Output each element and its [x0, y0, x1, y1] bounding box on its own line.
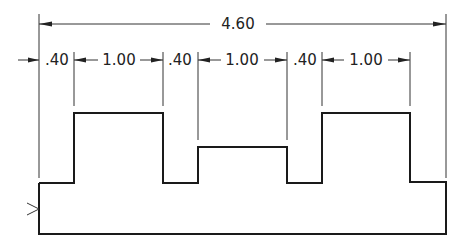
feature-marker-icon	[27, 203, 39, 215]
overall-dimension: 4.60	[39, 15, 446, 33]
segment-dimensions: .40 1.00 .40 1.00 .40 1.00	[18, 51, 410, 69]
dim-label-1: .40	[45, 51, 69, 69]
part-outline	[39, 113, 446, 234]
overall-dimension-label: 4.60	[221, 15, 254, 33]
dim-label-2: 1.00	[102, 51, 135, 69]
arrowhead-right-icon	[433, 22, 446, 27]
arrowhead-left-icon	[39, 22, 52, 27]
extension-lines	[39, 14, 446, 178]
dim-label-3: .40	[168, 51, 192, 69]
dim-label-5: .40	[293, 51, 317, 69]
dimension-drawing: 4.60 .40 1.00 .40 1.00 .40 1.00	[0, 0, 466, 248]
dim-label-4: 1.00	[225, 51, 258, 69]
dim-label-6: 1.00	[349, 51, 382, 69]
